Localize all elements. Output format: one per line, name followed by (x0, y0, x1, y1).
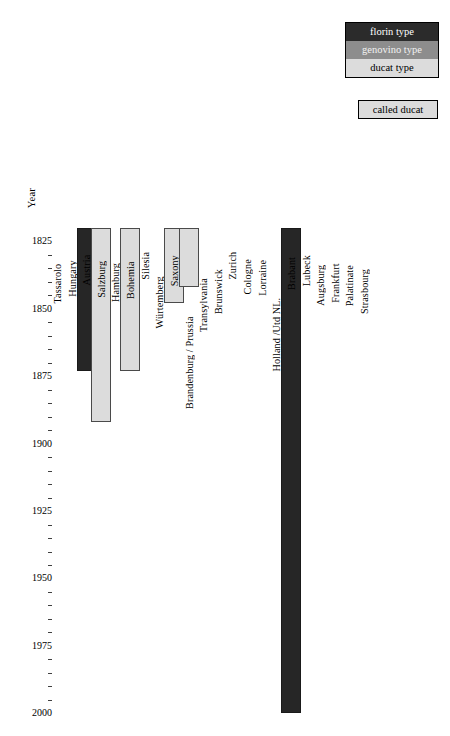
column-label: Bohemia (125, 261, 136, 298)
chart-page: florin type genovino type ducat type cal… (0, 0, 450, 736)
y-axis-tick (48, 700, 52, 701)
column-label: Tassarolo (52, 264, 63, 304)
y-axis-label: 1825 (22, 235, 52, 246)
column-label: Cologne (242, 259, 253, 294)
timeline-plot: Year18251850187519001925195019752000Tass… (0, 0, 450, 736)
y-axis-title: Year (26, 188, 37, 208)
y-axis-label: 1925 (22, 505, 52, 516)
column-label: Frankfurt (330, 263, 341, 302)
column-label: Transylvania (198, 278, 209, 332)
column-label: Augsburg (315, 265, 326, 306)
column-label: Zurich (227, 252, 238, 280)
y-axis-tick (48, 565, 52, 566)
y-axis-tick (48, 349, 52, 350)
column-label: Brabant (286, 257, 297, 290)
y-axis-tick (48, 457, 52, 458)
y-axis-tick (48, 619, 52, 620)
y-axis-tick (48, 525, 52, 526)
y-axis-tick (48, 673, 52, 674)
y-axis-tick (48, 403, 52, 404)
timeline-bar (120, 228, 140, 371)
column-label: Silesia (140, 252, 151, 280)
column-label: Salzburg (96, 261, 107, 298)
column-label: Lubeck (301, 255, 312, 286)
column-label: Strasbourg (359, 269, 370, 314)
y-axis-tick (48, 363, 52, 364)
y-axis-tick (48, 484, 52, 485)
timeline-bar (179, 228, 199, 287)
y-axis-tick (48, 686, 52, 687)
y-axis-tick (48, 498, 52, 499)
column-label: Brunswick (213, 269, 224, 314)
y-axis-label: 1850 (22, 303, 52, 314)
y-axis-label: 1900 (22, 438, 52, 449)
y-axis-label: 2000 (22, 707, 52, 718)
y-axis-tick (48, 592, 52, 593)
column-label: Palatinate (344, 265, 355, 306)
y-axis-label: 1875 (22, 370, 52, 381)
y-axis-tick (48, 471, 52, 472)
timeline-bar (281, 228, 301, 713)
y-axis-tick (48, 322, 52, 323)
y-axis-tick (48, 255, 52, 256)
y-axis-tick (48, 552, 52, 553)
y-axis-tick (48, 538, 52, 539)
y-axis-label: 1975 (22, 640, 52, 651)
timeline-bar (91, 228, 111, 422)
y-axis-tick (48, 336, 52, 337)
column-label: Lorraine (257, 260, 268, 296)
y-axis-tick (48, 390, 52, 391)
column-label: Brandenburg / Prussia (184, 316, 195, 408)
y-axis-tick (48, 417, 52, 418)
y-axis-tick (48, 605, 52, 606)
y-axis-tick (48, 659, 52, 660)
y-axis-tick (48, 632, 52, 633)
y-axis-label: 1950 (22, 572, 52, 583)
y-axis-tick (48, 430, 52, 431)
